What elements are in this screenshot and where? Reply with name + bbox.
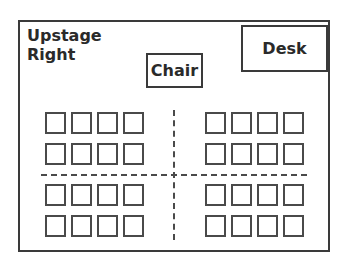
- chair-label: Chair: [151, 61, 198, 80]
- seat: [257, 184, 278, 206]
- seat: [97, 112, 118, 134]
- seat: [231, 184, 252, 206]
- seat: [231, 215, 252, 237]
- seat: [257, 215, 278, 237]
- seat: [97, 184, 118, 206]
- seat: [71, 215, 92, 237]
- seat: [205, 112, 226, 134]
- seat: [283, 143, 304, 165]
- chair-box: Chair: [146, 53, 203, 88]
- seat: [45, 143, 66, 165]
- seat: [231, 143, 252, 165]
- seat: [97, 215, 118, 237]
- seat: [283, 112, 304, 134]
- seat: [283, 215, 304, 237]
- seat: [283, 184, 304, 206]
- seat: [123, 184, 144, 206]
- desk-box: Desk: [241, 25, 328, 72]
- seat: [123, 215, 144, 237]
- seat: [205, 184, 226, 206]
- seat: [71, 112, 92, 134]
- seat: [205, 143, 226, 165]
- horizontal-aisle: [41, 174, 307, 176]
- seat: [257, 143, 278, 165]
- upstage-right-label: Upstage Right: [27, 26, 102, 64]
- label-line-2: Right: [27, 45, 102, 64]
- seat: [123, 143, 144, 165]
- seat: [45, 112, 66, 134]
- seat: [257, 112, 278, 134]
- label-line-1: Upstage: [27, 26, 102, 45]
- seat: [71, 184, 92, 206]
- seat: [231, 112, 252, 134]
- seat: [45, 184, 66, 206]
- seat: [71, 143, 92, 165]
- seat: [205, 215, 226, 237]
- seat: [97, 143, 118, 165]
- seat: [45, 215, 66, 237]
- desk-label: Desk: [262, 39, 306, 58]
- seat: [123, 112, 144, 134]
